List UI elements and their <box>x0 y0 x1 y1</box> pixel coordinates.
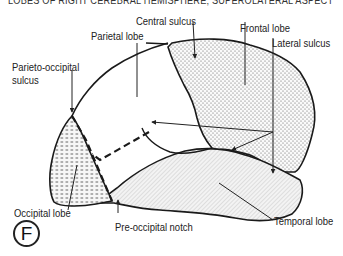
label-frontal-lobe: Frontal lobe <box>240 22 290 34</box>
parietal-outline <box>72 43 168 116</box>
label-parieto-occipital-line2: sulcus <box>12 74 39 86</box>
label-central-sulcus: Central sulcus <box>136 15 196 27</box>
figure-badge: F <box>13 220 40 247</box>
label-parietal-lobe: Parietal lobe <box>91 30 144 42</box>
label-parieto-occipital-line1: Parieto-occipital <box>12 61 79 73</box>
label-occipital-lobe: Occipital lobe <box>14 207 71 219</box>
label-temporal-lobe: Temporal lobe <box>274 215 333 227</box>
boundary-dashed <box>92 132 149 160</box>
label-lateral-sulcus: Lateral sulcus <box>272 37 330 49</box>
label-pre-occipital-notch: Pre-occipital notch <box>115 221 193 233</box>
